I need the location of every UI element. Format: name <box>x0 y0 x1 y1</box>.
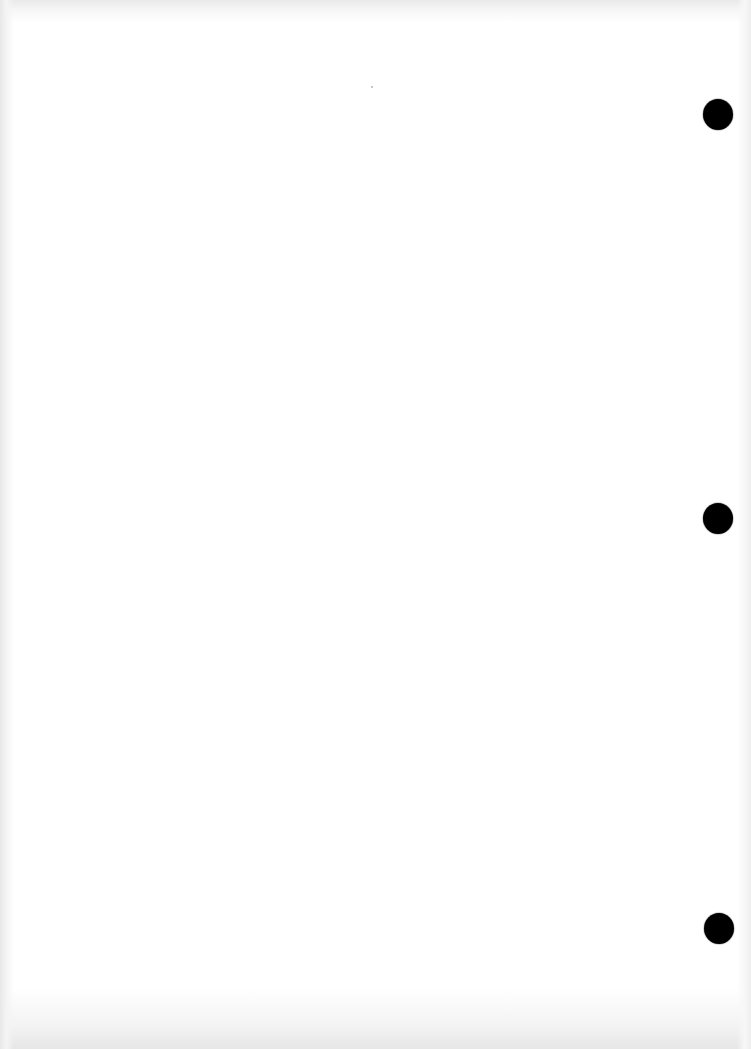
scan-edge-shadow-bottom <box>0 989 751 1049</box>
dust-speck <box>371 86 373 88</box>
scan-edge-shadow-right <box>737 0 751 1049</box>
punch-hole-middle <box>703 503 733 534</box>
punch-hole-top <box>703 99 733 130</box>
scan-edge-shadow-top <box>0 0 751 22</box>
punch-hole-bottom <box>704 913 734 944</box>
scanned-page <box>0 0 751 1049</box>
scan-edge-shadow-left <box>0 0 14 1049</box>
